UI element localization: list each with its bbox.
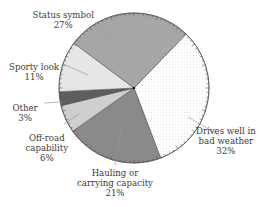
slice-label-line: Other bbox=[13, 103, 38, 113]
slice-label-line: 3% bbox=[13, 113, 38, 123]
slice-label-line: 21% bbox=[77, 188, 153, 198]
slice-label-line: Off-road bbox=[26, 133, 69, 143]
slice-label-line: 32% bbox=[196, 146, 256, 156]
leader-line bbox=[44, 102, 62, 103]
slice-label: Sporty look11% bbox=[9, 62, 59, 82]
slice-label-line: Sporty look bbox=[9, 62, 59, 72]
slice-label: Drives well inbad weather32% bbox=[196, 126, 256, 156]
slice-label: Off-roadcapability6% bbox=[26, 133, 69, 163]
slice-label-line: 11% bbox=[9, 72, 59, 82]
slice-label-line: bad weather bbox=[196, 136, 256, 146]
slice-label-line: capability bbox=[26, 143, 69, 153]
slice-label-line: Status symbol bbox=[33, 10, 94, 20]
slice-label: Other3% bbox=[13, 103, 38, 123]
slice-label-line: Drives well in bbox=[196, 126, 256, 136]
slice-label: Status symbol27% bbox=[33, 10, 94, 30]
slice-label-line: Hauling or bbox=[77, 168, 153, 178]
slice-label-line: 6% bbox=[26, 153, 69, 163]
slice-label-line: 27% bbox=[33, 20, 94, 30]
slice-label: Hauling orcarrying capacity21% bbox=[77, 168, 153, 198]
slice-label-line: carrying capacity bbox=[77, 178, 153, 188]
